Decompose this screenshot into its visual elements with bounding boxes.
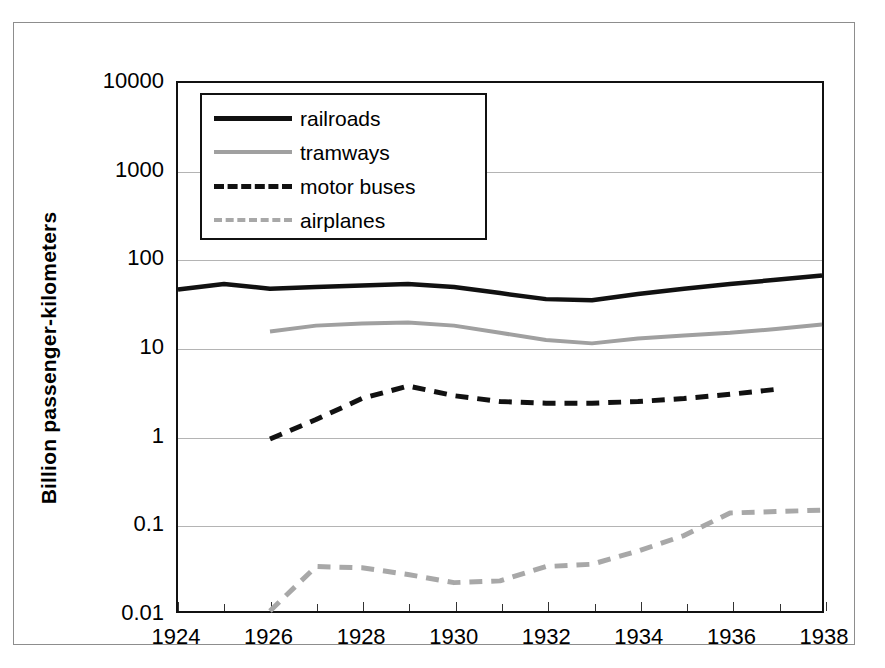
series-line-motor-buses xyxy=(270,386,776,439)
y-axis-title: Billion passenger-kilometers xyxy=(32,0,66,173)
legend-label-tramways: tramways xyxy=(300,142,390,163)
x-tick-label: 1932 xyxy=(506,626,586,648)
y-tick-label: 0.01 xyxy=(44,602,164,624)
legend-label-motor-buses: motor buses xyxy=(300,176,416,197)
legend-item-railroads: railroads xyxy=(202,101,485,135)
plot-area: railroads tramways motor buses airplanes xyxy=(176,81,824,613)
legend-swatch-tramways xyxy=(214,150,292,154)
x-tick xyxy=(826,602,827,611)
legend: railroads tramways motor buses airplanes xyxy=(200,93,487,240)
legend-label-airplanes: airplanes xyxy=(300,210,385,231)
legend-swatch-motor-buses xyxy=(214,184,292,189)
legend-swatch-airplanes xyxy=(214,218,292,222)
series-line-tramways xyxy=(270,322,822,343)
legend-item-motor-buses: motor buses xyxy=(202,169,485,203)
legend-label-railroads: railroads xyxy=(300,108,381,129)
x-tick-label: 1924 xyxy=(136,626,216,648)
legend-swatch-railroads xyxy=(214,116,292,121)
x-tick-label: 1926 xyxy=(229,626,309,648)
figure-frame: Billion passenger-kilometers railroads t… xyxy=(13,22,855,645)
series-line-airplanes xyxy=(270,510,822,611)
x-tick-label: 1934 xyxy=(599,626,679,648)
x-tick-label: 1938 xyxy=(784,626,864,648)
legend-item-airplanes: airplanes xyxy=(202,203,485,237)
x-tick-label: 1930 xyxy=(414,626,494,648)
x-tick-label: 1928 xyxy=(321,626,401,648)
series-line-railroads xyxy=(178,275,822,300)
legend-item-tramways: tramways xyxy=(202,135,485,169)
x-tick-label: 1936 xyxy=(691,626,771,648)
